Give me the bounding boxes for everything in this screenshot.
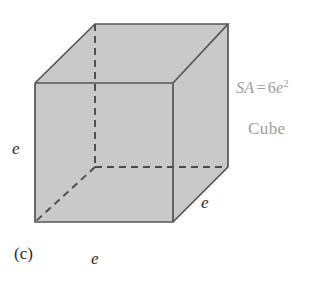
formula-exponent: 2 bbox=[283, 78, 288, 89]
formula-quantity: SA bbox=[236, 79, 254, 96]
shape-name-label: Cube bbox=[248, 120, 285, 137]
cube-diagram bbox=[0, 0, 321, 284]
cube-front-face bbox=[35, 83, 173, 222]
surface-area-formula: SA=6e2 bbox=[236, 80, 289, 96]
edge-label-bottom: e bbox=[91, 250, 99, 267]
formula-coefficient: 6 bbox=[268, 79, 276, 96]
part-label: (c) bbox=[14, 245, 33, 262]
cube-figure: e e e (c) SA=6e2 Cube bbox=[0, 0, 321, 284]
edge-label-right: e bbox=[201, 194, 209, 211]
formula-equals: = bbox=[254, 79, 267, 96]
edge-label-left: e bbox=[12, 140, 20, 157]
